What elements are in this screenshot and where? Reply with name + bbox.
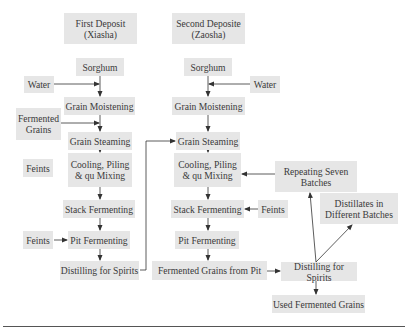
- right-distilling: Distilling for Spirits: [281, 262, 357, 281]
- left-feints-pit: Feints: [23, 231, 53, 249]
- right-feints-stack: Feints: [258, 200, 288, 218]
- left-distilling: Distilling for Spirits: [60, 261, 139, 280]
- used-fermented-grains: Used Fermented Grains: [272, 295, 365, 313]
- left-pit-fermenting: Pit Fermenting: [68, 231, 130, 249]
- left-grain-steaming: Grain Steaming: [68, 132, 132, 150]
- repeating-seven-batches: Repeating Seven Batches: [275, 161, 357, 192]
- distillates-different-batches: Distillates in Different Batches: [320, 193, 398, 224]
- right-water: Water: [250, 76, 280, 93]
- left-grain-moistening: Grain Moistening: [64, 97, 135, 115]
- left-feints-cooling: Feints: [23, 159, 53, 177]
- left-cooling-piling: Cooling, Piling & qu Mixing: [68, 153, 132, 187]
- right-cooling-piling: Cooling, Piling & qu Mixing: [174, 153, 241, 187]
- left-water: Water: [24, 76, 54, 93]
- first-deposit-header: First Deposit (Xiasha): [64, 13, 137, 44]
- right-grain-steaming: Grain Steaming: [176, 132, 240, 150]
- right-pit-fermenting: Pit Fermenting: [175, 231, 239, 249]
- right-grain-moistening: Grain Moistening: [172, 97, 245, 115]
- left-stack-fermenting: Stack Fermenting: [63, 200, 135, 218]
- left-sorghum: Sorghum: [76, 58, 124, 76]
- right-stack-fermenting: Stack Fermenting: [171, 200, 244, 218]
- second-deposit-header: Second Deposite (Zaosha): [172, 13, 245, 44]
- right-sorghum: Sorghum: [184, 58, 232, 76]
- fermented-grains-from-pit: Fermented Grains from Pit: [152, 261, 267, 280]
- bottom-rule: [3, 326, 405, 327]
- left-fermented-grains: Fermented Grains: [16, 108, 61, 140]
